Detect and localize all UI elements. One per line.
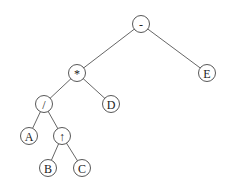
edge-minus-E [141,24,207,73]
edge-minus-times [77,24,141,73]
tree-svg: -*E/DA↑BC [0,0,227,187]
tree-node-B: B [40,160,57,177]
tree-node-times: * [69,65,86,82]
tree-node-power: ↑ [54,128,71,145]
node-label: E [203,67,210,81]
nodes-group: -*E/DA↑BC [21,16,216,177]
node-label: - [139,18,143,32]
tree-node-E: E [199,65,216,82]
edges-group [29,24,207,168]
node-label: ↑ [59,130,65,144]
tree-node-D: D [103,96,120,113]
node-label: D [107,98,116,112]
tree-node-C: C [74,160,91,177]
node-label: A [25,130,34,144]
node-label: C [78,162,86,176]
tree-node-minus: - [133,16,150,33]
node-label: * [74,67,80,81]
node-label: B [44,162,52,176]
expression-tree-diagram: -*E/DA↑BC [0,0,227,187]
tree-node-A: A [21,128,38,145]
tree-node-divide: / [36,96,53,113]
